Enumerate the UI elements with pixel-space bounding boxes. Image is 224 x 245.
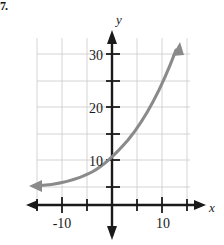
x-axis	[26, 200, 206, 210]
curve-arrowhead-right	[172, 42, 184, 56]
x-tick-label-neg10: -10	[53, 216, 72, 231]
x-axis-arrowhead	[194, 200, 206, 210]
y-axis-arrowhead	[107, 30, 117, 44]
exponential-curve	[29, 42, 184, 192]
problem-number-label: 7.	[0, 0, 7, 12]
figure-container: 7.	[0, 0, 224, 245]
x-tick-label-10: 10	[156, 216, 170, 231]
curve-path	[35, 50, 176, 186]
y-axis-arrowhead-bottom	[107, 226, 117, 240]
curve-arrowhead-left	[29, 180, 42, 192]
y-tick-label-30: 30	[89, 48, 103, 63]
y-tick-label-20: 20	[89, 101, 103, 116]
x-axis-label: x	[208, 200, 215, 215]
exponential-graph: y x -10 10 10 20 30	[0, 0, 224, 245]
y-axis	[107, 30, 117, 240]
y-axis-label: y	[114, 12, 122, 27]
y-tick-label-10: 10	[89, 154, 103, 169]
